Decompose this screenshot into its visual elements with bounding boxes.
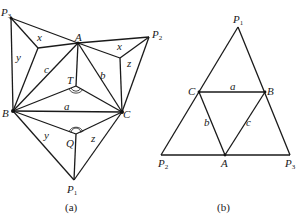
edge-x1-a	[38, 43, 78, 48]
label-q: Q	[66, 137, 74, 149]
vertex-b-dot	[264, 91, 267, 94]
label-p1: P1	[66, 183, 78, 197]
caption-b: (b)	[217, 201, 230, 214]
vertex-c-dot	[198, 91, 201, 94]
edge-p3-b	[11, 18, 13, 111]
label-b: B	[267, 85, 274, 97]
label-a: A	[220, 157, 228, 169]
edge-label-x-left: x	[36, 31, 42, 43]
edge-c-a	[199, 92, 225, 155]
edge-b-a	[225, 92, 265, 155]
edge-label-y-bottom: y	[43, 129, 49, 141]
caption-a: (a)	[65, 201, 78, 214]
edge-a-t	[76, 43, 78, 86]
edge-label-b: b	[204, 116, 210, 128]
edge-c-p1	[74, 112, 122, 180]
edge-p1-p3	[238, 27, 290, 155]
label-p3: P3	[284, 157, 296, 171]
edge-label-a: a	[230, 80, 236, 92]
label-b: B	[2, 107, 9, 119]
vertex-b-dot	[11, 109, 15, 113]
edge-label-z-bottom: z	[90, 132, 96, 144]
edge-label-y-left: y	[15, 51, 21, 63]
edge-x2-c	[120, 58, 122, 112]
edge-label-b: b	[100, 69, 106, 81]
geometry-figure: P3 A P2 B C T Q P1 x x y c b z a y z (a)…	[0, 0, 297, 216]
edge-c-q	[76, 112, 122, 134]
edge-label-c: c	[246, 116, 251, 128]
edge-p2-c	[122, 37, 149, 112]
label-p2: P2	[157, 157, 169, 171]
edge-label-z-right: z	[126, 57, 132, 69]
label-p1: P1	[232, 13, 244, 27]
vertex-a-dot	[224, 154, 227, 157]
edge-x2-a	[78, 43, 120, 58]
figure-b: P1 C B P2 A P3 a b c (b)	[157, 13, 296, 214]
label-p3: P3	[0, 6, 12, 20]
edge-label-c: c	[44, 63, 49, 75]
edge-label-a: a	[64, 100, 70, 112]
label-p2: P2	[151, 28, 163, 42]
label-c: C	[188, 85, 196, 97]
figure-a: P3 A P2 B C T Q P1 x x y c b z a y z (a)	[0, 6, 163, 214]
edge-p3-a	[11, 18, 78, 43]
label-a: A	[74, 31, 82, 43]
edge-q-p1	[74, 134, 76, 180]
edge-label-x-right: x	[116, 40, 122, 52]
edge-b-p1	[13, 111, 74, 180]
label-t: T	[67, 74, 74, 86]
label-c: C	[123, 108, 131, 120]
edge-a-p2	[78, 37, 149, 43]
